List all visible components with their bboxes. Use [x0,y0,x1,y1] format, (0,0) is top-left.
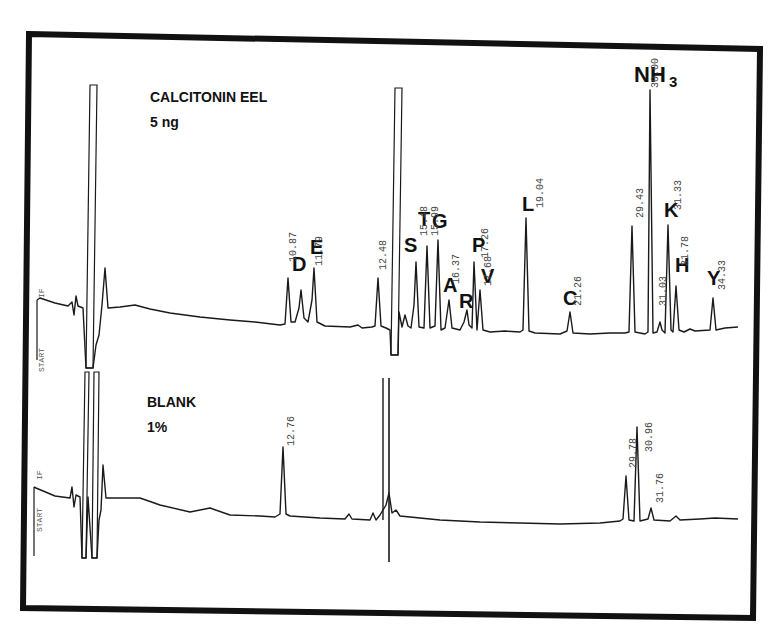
blank-subtitle: 1% [147,419,168,435]
retention-time-label: 31.33 [673,180,684,210]
if-label: IF [35,470,44,480]
chromatogram-figure: CALCITONIN EEL 5 ng START IF BLANK 1% ST… [0,0,770,628]
retention-time-label: 30.00 [650,58,661,88]
retention-time-labels: 10.8711.7912.4815.4815.9916.3717.2617.68… [286,58,728,503]
retention-time-label: 31.03 [658,276,669,306]
retention-time-label: 31.78 [680,236,691,266]
retention-time-label: 12.76 [286,416,297,446]
retention-time-label: 16.37 [451,254,462,284]
blank-title: BLANK [147,394,196,410]
retention-time-label: 12.48 [378,240,389,270]
sample-trace [37,90,738,368]
nh3-label-subscript: 3 [669,73,677,90]
peak-label-l: L [522,193,534,215]
retention-time-label: 11.79 [314,236,325,266]
start-label: START [37,348,46,372]
if-label: IF [37,288,46,298]
retention-time-label: 31.76 [655,473,666,503]
buffer-change-offscale-peak [391,88,402,355]
retention-time-label: 10.87 [288,232,299,262]
injection-offscale-peak [82,372,89,558]
sample-subtitle: 5 ng [150,114,179,130]
start-label: START [35,508,44,532]
retention-time-label: 15.48 [419,206,430,236]
retention-time-label: 29.43 [635,188,646,218]
retention-time-label: 21.26 [573,276,584,306]
retention-time-label: 34.33 [717,260,728,290]
sample-chromatogram: CALCITONIN EEL 5 ng START IF [37,85,738,372]
sample-title: CALCITONIN EEL [150,89,268,105]
retention-time-label: 17.26 [480,228,491,258]
retention-time-label: 30.96 [644,422,655,452]
retention-time-label: 29.78 [628,438,639,468]
amino-acid-peak-labels: DESTGARPVLCKHY [292,193,721,312]
peak-label-r: R [459,290,474,312]
peak-label-s: S [404,234,417,256]
retention-time-label: 19.04 [535,178,546,208]
retention-time-label: 15.99 [430,206,441,236]
retention-time-label: 17.68 [483,256,494,286]
injection-offscale-peak [86,85,97,368]
